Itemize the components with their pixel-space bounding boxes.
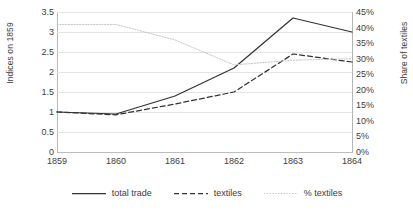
y-axis-right-tick-label: 25% [356, 69, 396, 79]
legend-swatch-solid [72, 189, 106, 198]
x-axis-tick-label: 1863 [270, 156, 316, 166]
y-axis-right-tick-label: 10% [356, 116, 396, 126]
y-axis-left-tick-label: 1.5 [12, 87, 54, 97]
y-axis-left-tick-label: 0.5 [12, 127, 54, 137]
legend-label: total trade [112, 188, 152, 198]
y-axis-left-ticks: 00.511.522.533.5 [8, 0, 54, 210]
y-axis-right-spine [352, 12, 353, 153]
y-axis-left-tick-label: 3 [12, 27, 54, 37]
y-axis-left-tick-label: 1 [12, 107, 54, 117]
legend-label: textiles [214, 188, 242, 198]
line-chart: Indices on 1859 Share of textiles 00.511… [0, 0, 413, 210]
legend-item[interactable]: textiles [174, 188, 242, 198]
y-axis-right-tick-label: 40% [356, 23, 396, 33]
x-axis-tick-label: 1859 [34, 156, 80, 166]
y-axis-left-tick-label: 2.5 [12, 47, 54, 57]
y-axis-right-tick-label: 45% [356, 7, 396, 17]
series-line [57, 18, 352, 114]
series-layer [57, 12, 352, 152]
x-axis-tick-label: 1860 [93, 156, 139, 166]
x-axis-tick-label: 1862 [211, 156, 257, 166]
x-axis-tick-label: 1864 [329, 156, 375, 166]
plot-area [57, 12, 352, 152]
legend-swatch-dotted [264, 189, 298, 198]
y-axis-right-tick-label: 30% [356, 54, 396, 64]
legend-item[interactable]: total trade [72, 188, 152, 198]
series-line [57, 24, 352, 64]
y-axis-right-tick-label: 20% [356, 85, 396, 95]
legend-swatch-dashed [174, 189, 208, 198]
x-axis-ticks: 185918601861186218631864 [57, 156, 352, 170]
y-axis-left-tick-label: 3.5 [12, 7, 54, 17]
legend-item[interactable]: % textiles [264, 188, 343, 198]
chart-legend: total tradetextiles% textiles [57, 185, 357, 201]
y-axis-left-tick-label: 2 [12, 67, 54, 77]
gridline [57, 152, 352, 153]
y-axis-right-tick-label: 15% [356, 100, 396, 110]
legend-label: % textiles [304, 188, 343, 198]
y-axis-right-title: Share of textiles [399, 17, 409, 89]
x-axis-tick-label: 1861 [152, 156, 198, 166]
series-line [57, 54, 352, 115]
y-axis-right-ticks: 0%5%10%15%20%25%30%35%40%45% [356, 0, 396, 210]
y-axis-right-tick-label: 5% [356, 131, 396, 141]
y-axis-right-tick-label: 35% [356, 38, 396, 48]
